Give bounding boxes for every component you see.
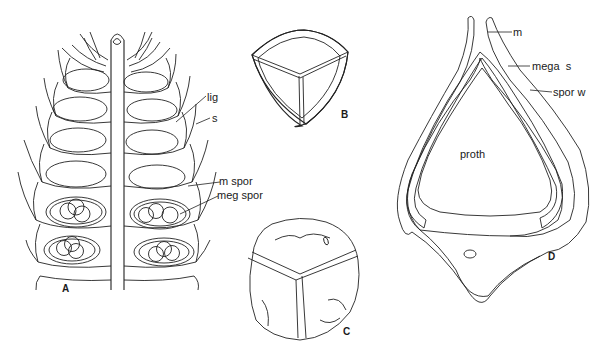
microsporangium [127,99,177,121]
leader-m-spor [188,182,220,186]
label-spor-w: spor w [553,86,585,98]
panel-a-strobilus: lig s m spor meg spor A [18,32,263,294]
leader-meg-spor [180,196,218,214]
label-m-spor: m spor [219,175,253,187]
right-sporophylls [124,54,216,290]
label-proth: proth [460,148,485,160]
label-mega-s: mega s [532,60,572,72]
microsporangium [129,165,185,189]
panel-label-d: D [548,251,555,262]
panel-label-c: C [343,326,350,337]
microsporangium [50,128,106,152]
microsporangium [126,130,178,154]
panel-d-section: m mega s spor w proth D [397,16,589,302]
megasporangium [44,236,100,264]
label-lig: lig [207,91,218,103]
strobilus-axis [111,40,124,290]
panel-b-spore: B [252,30,348,127]
microsporangium [124,72,168,92]
panel-c-megaspore: C [248,218,359,340]
microsporangium [63,69,109,91]
panel-label-a: A [62,283,69,294]
megasporangium [134,238,194,266]
microsporangium [53,97,107,121]
panel-label-b: B [341,109,348,120]
apical-bracts [62,32,170,72]
megaspore [74,206,90,222]
label-m: m [513,26,522,38]
label-meg-spor: meg spor [217,189,263,201]
leader-s [196,118,210,124]
megaspore [162,207,178,223]
left-sporophylls [18,50,111,290]
label-s: s [212,112,218,124]
botanical-figure: lig s m spor meg spor A B C [0,0,615,358]
microsporangium [46,161,106,187]
spore-wall [407,52,563,228]
archegonium [464,250,476,258]
triradiate-ridge [252,52,348,74]
leader-spor-w [530,90,552,92]
